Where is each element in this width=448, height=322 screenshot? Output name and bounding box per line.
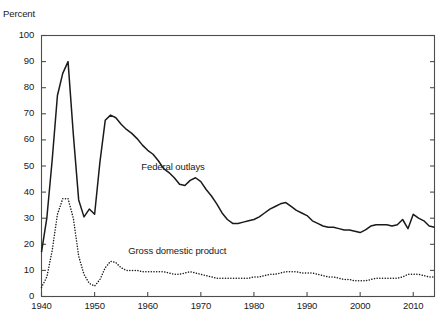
plot-area: [0, 0, 448, 322]
series-line-gross-domestic-product: [42, 199, 435, 288]
chart-container: Percent 1009080706050403020100 194019501…: [0, 0, 448, 322]
axis-ticks: [42, 36, 435, 297]
data-series: [42, 62, 435, 288]
series-label-federal-outlays: Federal outlays: [141, 161, 204, 172]
axis-lines: [42, 36, 435, 297]
series-line-federal-outlays: [42, 62, 435, 253]
plot-frame: [42, 36, 435, 297]
series-label-gross-domestic-product: Gross domestic product: [128, 245, 226, 256]
